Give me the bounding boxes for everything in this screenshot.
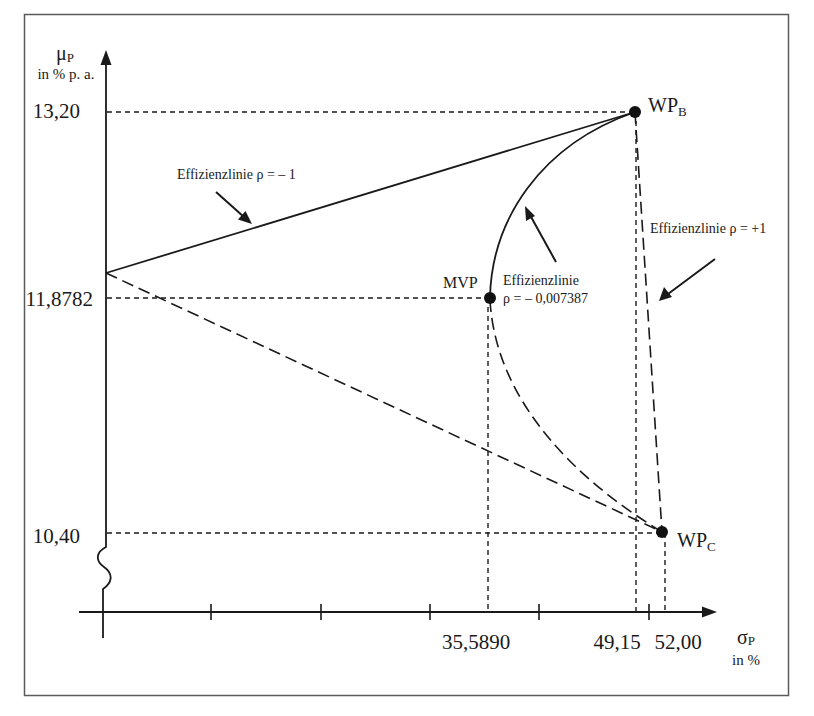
x-tick-label-wpc: 52,00 (654, 630, 701, 654)
chart-frame (25, 15, 789, 696)
y-tick-label-mid: 11,8782 (26, 287, 93, 311)
point-wpb (629, 106, 641, 118)
x-axis-symbol: σP (737, 626, 755, 648)
y-axis (98, 60, 111, 638)
efficient-frontier-chart: μP in % p. a. 13,20 11,8782 10,40 35,589… (0, 0, 814, 716)
label-wpc: WPC (677, 529, 716, 554)
point-mvp (484, 292, 496, 304)
x-axis-unit: in % (732, 652, 760, 668)
y-axis-arrowhead-icon (101, 50, 112, 65)
label-wpb: WPB (648, 94, 687, 119)
annotation-curve-line1: Effizienzlinie (503, 273, 579, 288)
y-tick-label-bottom: 10,40 (33, 524, 80, 548)
arrow-rho-plus-one-icon (668, 259, 715, 294)
arrow-curve-icon (530, 215, 556, 262)
point-wpc (656, 526, 668, 538)
frontier-curve-inefficient (490, 300, 662, 532)
y-axis-symbol: μP (56, 42, 74, 65)
frontier-rho-plus-one (635, 112, 662, 532)
x-tick-label-mvp: 35,5890 (442, 630, 510, 654)
frontier-rho-minus-one-inefficient (106, 273, 662, 532)
x-axis-arrowhead-icon (702, 607, 717, 618)
annotation-rho-minus-one: Effizienzlinie ρ = – 1 (177, 167, 296, 182)
y-axis-unit: in % p. a. (37, 66, 94, 82)
label-mvp: MVP (443, 274, 478, 291)
frontier-curve-efficient (490, 112, 635, 297)
x-tick-label-wpb: 49,15 (593, 630, 640, 654)
annotation-curve-line2: ρ = – 0,007387 (503, 291, 588, 306)
y-tick-label-top: 13,20 (33, 99, 80, 123)
annotation-rho-plus-one: Effizienzlinie ρ = +1 (650, 221, 766, 236)
frontier-rho-minus-one-efficient (106, 112, 635, 273)
arrow-rho-minus-one-icon (216, 192, 244, 217)
